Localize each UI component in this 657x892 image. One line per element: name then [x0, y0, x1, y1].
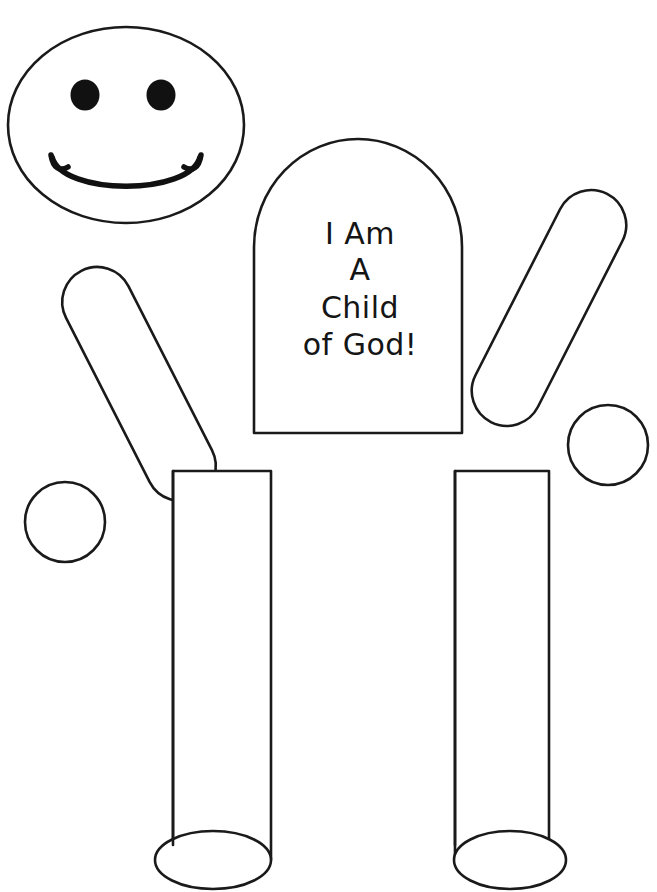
left-leg [155, 471, 271, 889]
torso-text-line-4: of God! [303, 327, 418, 362]
right-eye-icon [147, 80, 176, 111]
left-leg-outline [173, 471, 271, 860]
right-leg-outline [455, 471, 549, 860]
torso-text-line-3: Child [321, 290, 399, 325]
right-arm [460, 178, 648, 485]
torso-text-line-1: I Am [325, 216, 395, 251]
left-hand-outline [25, 482, 105, 562]
right-foot-outline [454, 831, 566, 889]
left-eye-icon [71, 80, 100, 111]
torso-text-line-2: A [349, 252, 370, 287]
doll-artboard: I Am A Child of God! [0, 0, 657, 892]
right-leg [454, 471, 566, 889]
right-hand-outline [568, 405, 648, 485]
paper-doll-worksheet: I Am A Child of God! [0, 0, 657, 892]
right-arm-outline [460, 178, 639, 438]
smiley-face-head [8, 27, 244, 223]
head-outline [8, 27, 244, 223]
torso-body-piece: I Am A Child of God! [254, 139, 462, 433]
